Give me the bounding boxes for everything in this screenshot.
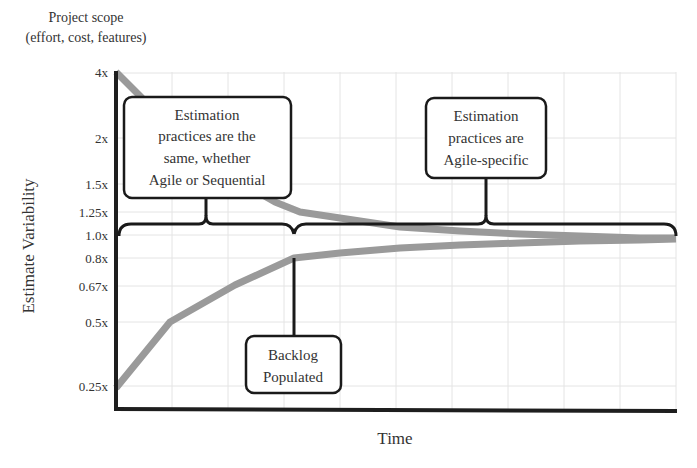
box2-line-3: Agile-specific [444, 152, 529, 168]
box1-line-2: practices are the [158, 128, 256, 144]
y-tick-0-67x: 0.67x [79, 279, 109, 294]
y-tick-0-25x: 0.25x [79, 379, 109, 394]
y-tick-labels: 4x 2x 1.5x 1.25x 1.0x 0.8x 0.67x 0.5x 0.… [79, 65, 109, 394]
y-tick-0-5x: 0.5x [85, 315, 108, 330]
annotation-phase-1: Estimation practices are the same, wheth… [124, 97, 291, 198]
box1-line-1: Estimation [175, 107, 240, 123]
y-tick-2x: 2x [95, 131, 109, 146]
title-line-2: (effort, cost, features) [25, 30, 146, 46]
box1-line-4: Agile or Sequential [149, 172, 266, 188]
chart-title: Project scope (effort, cost, features) [25, 10, 146, 46]
y-axis-label: Estimate Variability [19, 178, 38, 314]
y-tick-1-0x: 1.0x [85, 228, 108, 243]
y-tick-0-8x: 0.8x [85, 251, 108, 266]
cone-of-uncertainty-chart: Project scope (effort, cost, features) [0, 0, 697, 468]
brace-phase-1 [119, 216, 294, 236]
box2-line-1: Estimation [454, 108, 519, 124]
box3-line-1: Backlog [268, 347, 318, 363]
y-tick-1-25x: 1.25x [79, 205, 109, 220]
y-tick-4x: 4x [95, 65, 109, 80]
title-line-1: Project scope [48, 10, 123, 25]
annotation-phase-2: Estimation practices are Agile-specific [426, 98, 546, 178]
box3-line-2: Populated [263, 369, 323, 385]
x-axis-label: Time [377, 429, 412, 448]
x-axis [114, 409, 677, 411]
annotation-backlog-populated: Backlog Populated [246, 336, 341, 393]
box1-line-3: same, whether [164, 150, 251, 166]
box2-line-2: practices are [448, 130, 524, 146]
y-tick-1-5x: 1.5x [85, 177, 108, 192]
